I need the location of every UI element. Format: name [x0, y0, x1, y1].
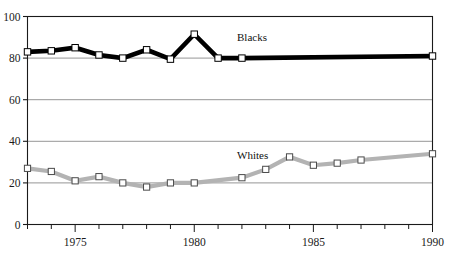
data-point-marker — [96, 174, 102, 180]
series-label-whites: Whites — [237, 149, 268, 161]
data-point-marker — [167, 180, 173, 186]
series-label-blacks: Blacks — [237, 31, 267, 43]
x-tick-label: 1990 — [421, 236, 444, 248]
data-point-marker — [143, 47, 149, 53]
data-point-marker — [167, 56, 173, 62]
chart-container: 020406080100 1975198019851990 BlacksWhit… — [0, 0, 449, 256]
x-tick-label: 1980 — [183, 236, 206, 248]
series-line-whites — [24, 151, 435, 190]
line-chart: 020406080100 1975198019851990 BlacksWhit… — [0, 0, 449, 256]
plot-frame — [28, 17, 433, 225]
data-point-marker — [48, 48, 54, 54]
series-path — [28, 154, 433, 187]
y-tick-label: 100 — [3, 11, 21, 23]
data-point-marker — [429, 151, 435, 157]
data-point-marker — [48, 168, 54, 174]
data-point-marker — [429, 53, 435, 59]
x-axis-tick-labels: 1975198019851990 — [64, 236, 445, 248]
data-point-marker — [96, 52, 102, 58]
data-point-marker — [310, 162, 316, 168]
data-point-marker — [191, 180, 197, 186]
y-tick-label: 0 — [15, 219, 21, 231]
data-point-marker — [72, 178, 78, 184]
x-tick-label: 1975 — [64, 236, 87, 248]
data-point-marker — [120, 55, 126, 61]
data-point-marker — [191, 31, 197, 37]
y-tick-label: 80 — [9, 52, 21, 64]
data-point-marker — [334, 160, 340, 166]
series-path — [28, 34, 433, 59]
data-point-marker — [263, 166, 269, 172]
data-point-marker — [358, 157, 364, 163]
data-point-marker — [72, 45, 78, 51]
y-tick-label: 60 — [9, 94, 21, 106]
data-point-marker — [286, 154, 292, 160]
data-point-marker — [239, 175, 245, 181]
data-point-marker — [239, 55, 245, 61]
series-line-blacks — [24, 31, 435, 62]
data-point-marker — [215, 55, 221, 61]
y-axis-tick-labels: 020406080100 — [3, 11, 21, 231]
y-tick-label: 20 — [9, 177, 21, 189]
gridlines — [28, 58, 433, 183]
data-point-marker — [120, 180, 126, 186]
plot-border — [28, 17, 433, 225]
y-tick-label: 40 — [9, 135, 21, 147]
y-axis-ticks — [23, 17, 28, 225]
data-point-marker — [24, 49, 30, 55]
x-tick-label: 1985 — [302, 236, 325, 248]
data-point-marker — [24, 165, 30, 171]
data-point-marker — [144, 184, 150, 190]
x-axis-ticks — [28, 225, 433, 233]
